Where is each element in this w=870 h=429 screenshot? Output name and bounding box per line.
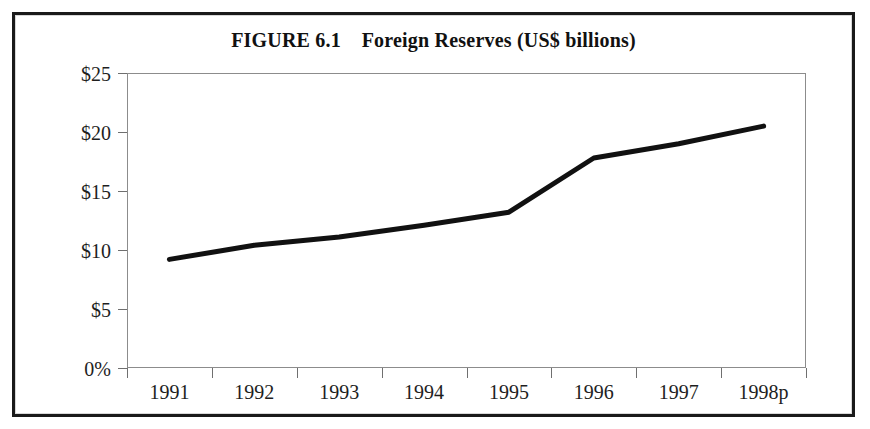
y-axis-tick-label: $15 <box>81 181 111 204</box>
x-axis-tick-label: 1993 <box>319 381 359 404</box>
x-axis-tick-label: 1995 <box>489 381 529 404</box>
y-axis-tick-label: $20 <box>81 122 111 145</box>
x-axis-tick <box>297 368 298 378</box>
x-axis-labels: 19911992199319941995199619971998p <box>127 381 806 411</box>
x-axis-tick-label: 1998p <box>739 381 789 404</box>
figure-title: FIGURE 6.1 Foreign Reserves (US$ billion… <box>15 29 852 52</box>
y-axis-tick: $10 <box>118 250 127 251</box>
y-axis-tick: 0% <box>118 368 127 369</box>
y-axis-tick-label: $25 <box>81 63 111 86</box>
x-axis-tick-label: 1997 <box>659 381 699 404</box>
x-axis-tick-label: 1994 <box>404 381 444 404</box>
x-axis-tick <box>127 368 128 378</box>
y-axis-tick: $20 <box>118 132 127 133</box>
x-axis-tick <box>806 368 807 378</box>
x-axis-tick-label: 1991 <box>149 381 189 404</box>
figure-frame: FIGURE 6.1 Foreign Reserves (US$ billion… <box>12 12 855 417</box>
y-axis-tick-label: $10 <box>81 240 111 263</box>
line-series-foreign-reserves <box>127 73 806 368</box>
x-axis-tick <box>636 368 637 378</box>
x-axis-ticks <box>127 368 806 378</box>
x-axis-tick <box>467 368 468 378</box>
x-axis-tick <box>212 368 213 378</box>
y-axis-tick: $5 <box>118 309 127 310</box>
x-axis-tick <box>382 368 383 378</box>
x-axis-tick-label: 1996 <box>574 381 614 404</box>
x-axis-tick-label: 1992 <box>234 381 274 404</box>
x-axis-tick <box>551 368 552 378</box>
chart-plot-area: $25$20$15$10$50% 19911992199319941995199… <box>127 61 806 368</box>
y-axis-tick: $15 <box>118 191 127 192</box>
y-axis-tick: $25 <box>118 73 127 74</box>
x-axis-tick <box>721 368 722 378</box>
y-axis-tick-label: $5 <box>91 299 111 322</box>
y-axis-tick-label: 0% <box>84 358 111 381</box>
